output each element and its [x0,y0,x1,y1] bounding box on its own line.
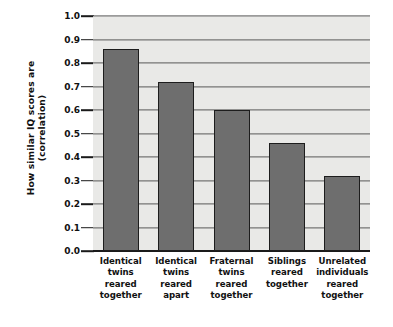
y-axis-title-line-1: How similar IQ scores are [25,61,36,196]
y-axis-tick-label: 0.5 [64,129,80,139]
x-axis-category-label-line: together [93,290,148,301]
bar [324,176,360,251]
y-axis-tick-label: 0.8 [64,58,80,68]
x-axis-category-label: Identicaltwinsrearedtogether [93,256,148,301]
x-axis-category-label-line: Unrelated [315,256,370,267]
bar [103,49,139,251]
y-axis-tick-labels: 1.00.90.80.70.60.50.40.30.20.10.0 [56,16,80,251]
x-axis-category-label-line: together [204,290,259,301]
bar-chart-figure: How similar IQ scores are (correlation) … [0,0,393,327]
bar [158,82,194,251]
y-axis-tick-label: 0.9 [64,35,80,45]
y-axis-tick-label: 0.0 [64,246,80,256]
y-axis-tick-label: 0.6 [64,105,80,115]
bar-series [93,16,370,251]
x-axis-category-label-line: Fraternal [204,256,259,267]
y-axis-tick-label: 0.2 [64,199,80,209]
y-axis-tick-label: 1.0 [64,11,80,21]
x-axis-category-label: Unrelatedindividualsrearedtogether [315,256,370,301]
bar [269,143,305,251]
x-axis-category-label-line: reared [93,279,148,290]
x-axis-category-label-line: Identical [93,256,148,267]
y-axis-title-line-2: (correlation) [36,95,47,162]
x-axis-category-label-line: together [259,279,314,290]
x-axis-category-label: Identicaltwinsrearedapart [148,256,203,301]
x-axis-category-label-line: individuals [315,267,370,278]
x-axis-category-label-line: apart [148,290,203,301]
x-axis-category-label-line: twins [93,267,148,278]
x-axis-category-label-line: reared [259,267,314,278]
y-axis-tick-label: 0.3 [64,176,80,186]
x-axis-category-label-line: reared [148,279,203,290]
x-axis-category-label: Siblingsrearedtogether [259,256,314,290]
y-axis-tick-label: 0.7 [64,82,80,92]
x-axis-category-label-line: twins [204,267,259,278]
bar [214,110,250,251]
plot-area [93,16,370,251]
x-axis-category-label-line: Siblings [259,256,314,267]
y-axis-tick-label: 0.1 [64,223,80,233]
x-axis-category-label-line: reared [204,279,259,290]
y-axis-tick-label: 0.4 [64,152,80,162]
x-axis-category-label-line: Identical [148,256,203,267]
x-axis-category-label: Fraternaltwinsrearedtogether [204,256,259,301]
x-axis-category-label-line: reared [315,279,370,290]
x-axis-category-label-line: together [315,290,370,301]
x-axis-category-label-line: twins [148,267,203,278]
y-axis-title: How similar IQ scores are (correlation) [14,3,58,253]
x-axis-category-labels: IdenticaltwinsrearedtogetherIdenticaltwi… [93,256,370,318]
